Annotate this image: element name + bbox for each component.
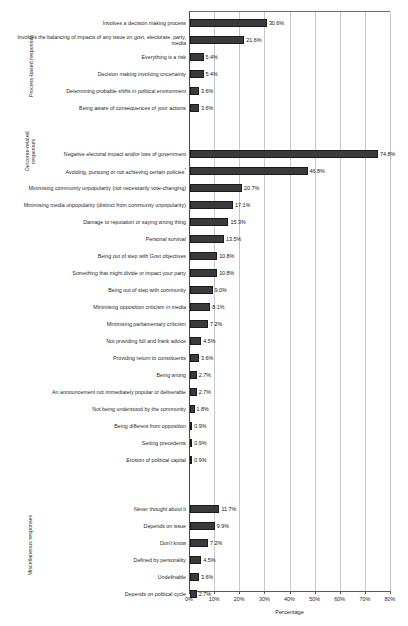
- bar: [190, 388, 197, 396]
- bar-row: An announcement not immediately popular …: [0, 383, 408, 400]
- bar-category-label: Avoiding, pursuing or not achieving cert…: [16, 166, 186, 174]
- bar-row: Personal survival13.5%: [0, 230, 408, 247]
- x-tick-mark: [365, 591, 366, 594]
- x-tick-label: 10%: [201, 596, 227, 602]
- bar-row: Being out of step with Govt objectives10…: [0, 247, 408, 264]
- x-tick-mark: [290, 591, 291, 594]
- bar-category-label: Involves the balancing of impacts of any…: [16, 33, 186, 46]
- bar-category-label: Not being understood by the community: [16, 405, 186, 411]
- bar-row: Minimising opposition criticism in media…: [0, 298, 408, 315]
- bar: [190, 505, 219, 513]
- x-tick-label: 30%: [251, 596, 277, 602]
- bar-row: Decision making involving uncertainty5.4…: [0, 65, 408, 82]
- x-tick-mark: [340, 591, 341, 594]
- bar-category-label: Being out of step with community: [16, 286, 186, 292]
- bar-row: Setting precedents0.9%: [0, 434, 408, 451]
- bar-value-label: 13.5%: [226, 236, 241, 242]
- bar-value-label: 17.1%: [235, 202, 250, 208]
- bar-row: Negative electoral impact and/or loss of…: [0, 145, 408, 162]
- bar-value-label: 10.8%: [219, 253, 234, 259]
- x-tick-label: 0%: [176, 596, 202, 602]
- bar: [190, 269, 217, 277]
- x-tick-label: 40%: [277, 596, 303, 602]
- bar: [190, 70, 204, 78]
- bar-category-label: Negative electoral impact and/or loss of…: [16, 150, 186, 156]
- bar-value-label: 7.2%: [210, 540, 222, 546]
- bar-value-label: 0.9%: [194, 457, 206, 463]
- bar-category-label: Erosion of political capital: [16, 456, 186, 462]
- bar-category-label: Everything is a risk: [16, 53, 186, 59]
- bar: [190, 286, 213, 294]
- x-tick-mark: [214, 591, 215, 594]
- bar-row: Minimising community unpopularity (not n…: [0, 179, 408, 196]
- bar-row: Minimising media unpopularity (distinct …: [0, 196, 408, 213]
- bar-value-label: 30.6%: [269, 20, 284, 26]
- bar-row: Depends on issue9.9%: [0, 517, 408, 534]
- bar-category-label: Don't know: [16, 539, 186, 545]
- bar-category-label: Depends on political cycle: [16, 590, 186, 596]
- bar-row: Damage to reputation or saying wrong thi…: [0, 213, 408, 230]
- bar: [190, 87, 199, 95]
- bar-row: Being aware of consequences of your acti…: [0, 99, 408, 116]
- bar-category-label: Undefinable: [16, 573, 186, 579]
- bar-chart: Process-based responses Outcome-related …: [0, 0, 408, 626]
- bar-category-label: Never thought about it: [16, 505, 186, 511]
- bar-row: Erosion of political capital0.9%: [0, 451, 408, 468]
- bar-row: Involves the balancing of impacts of any…: [0, 31, 408, 48]
- bar-value-label: 1.8%: [197, 406, 209, 412]
- bar-category-label: Involves a decision making process: [16, 19, 186, 25]
- bar-category-label: An announcement not immediately popular …: [16, 388, 186, 394]
- bar-value-label: 20.7%: [244, 185, 259, 191]
- bar: [190, 439, 192, 447]
- bar: [190, 556, 201, 564]
- bar: [190, 235, 224, 243]
- bar: [190, 371, 197, 379]
- bar-category-label: Minimising community unpopularity (not n…: [16, 184, 186, 190]
- bar-row: Determining probable shifts in political…: [0, 82, 408, 99]
- bar-value-label: 0.9%: [194, 440, 206, 446]
- bar: [190, 320, 208, 328]
- bar: [190, 19, 267, 27]
- bar: [190, 184, 242, 192]
- bar: [190, 422, 192, 430]
- bar: [190, 150, 378, 158]
- bar: [190, 456, 192, 464]
- x-tick-mark: [264, 591, 265, 594]
- bar: [190, 104, 199, 112]
- bar-category-label: Being different from opposition: [16, 422, 186, 428]
- bar-row: Being out of step with community9.0%: [0, 281, 408, 298]
- bar-category-label: Something that might divide or impact yo…: [16, 269, 186, 275]
- bar-value-label: 3.6%: [201, 88, 213, 94]
- bar-value-label: 21.6%: [246, 37, 261, 43]
- bar-value-label: 0.9%: [194, 423, 206, 429]
- bar-value-label: 5.4%: [206, 71, 218, 77]
- bar-row: Involves a decision making process30.6%: [0, 14, 408, 31]
- bar-category-label: Damage to reputation or saying wrong thi…: [16, 218, 186, 224]
- bar-value-label: 2.7%: [199, 372, 211, 378]
- bar-value-label: 5.4%: [206, 54, 218, 60]
- bar-row: Avoiding, pursuing or not achieving cert…: [0, 162, 408, 179]
- bar: [190, 354, 199, 362]
- bar: [190, 53, 204, 61]
- bar-value-label: 4.5%: [203, 557, 215, 563]
- bar-value-label: 46.8%: [310, 168, 325, 174]
- bar-value-label: 9.0%: [215, 287, 227, 293]
- bar-category-label: Defined by personality: [16, 556, 186, 562]
- bar-row: Not being understood by the community1.8…: [0, 400, 408, 417]
- bar-value-label: 7.2%: [210, 321, 222, 327]
- bar: [190, 218, 228, 226]
- bar-value-label: 3.6%: [201, 355, 213, 361]
- x-tick-label: 80%: [377, 596, 403, 602]
- bar-category-label: Minimising parliamentary criticism: [16, 320, 186, 326]
- bar-row: Don't know7.2%: [0, 534, 408, 551]
- bar: [190, 405, 195, 413]
- bar-value-label: 74.8%: [380, 151, 395, 157]
- x-tick-mark: [189, 591, 190, 594]
- bar-category-label: Determining probable shifts in political…: [16, 87, 186, 93]
- bar: [190, 201, 233, 209]
- bar-category-label: Setting precedents: [16, 439, 186, 445]
- bar-value-label: 4.5%: [203, 338, 215, 344]
- bar-category-label: Being aware of consequences of your acti…: [16, 104, 186, 110]
- bar-category-label: Minimising opposition criticism in media: [16, 303, 186, 309]
- bar-value-label: 2.7%: [199, 389, 211, 395]
